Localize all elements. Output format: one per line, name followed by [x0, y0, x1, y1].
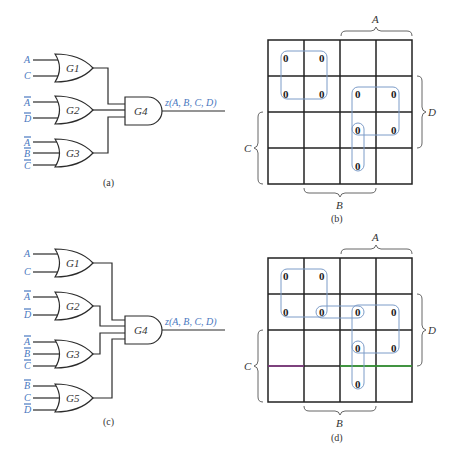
kmap-cell-zero: 0 — [319, 52, 325, 64]
caption-a: (a) — [103, 177, 114, 189]
input-label-c: C — [24, 392, 31, 403]
input-label-d-bar: D — [23, 404, 32, 415]
brace-c — [254, 112, 263, 184]
panel-c-circuit: A C A D A B C B C D G1 G2 G3 — [23, 248, 225, 428]
gate-label-g2: G2 — [66, 300, 80, 312]
kmap-cell-zero: 0 — [355, 378, 361, 390]
kmap-cell-zero: 0 — [283, 270, 289, 282]
output-label: z(A, B, C, D) — [164, 316, 217, 328]
brace-a — [341, 27, 412, 36]
output-label: z(A, B, C, D) — [164, 97, 217, 109]
kmap-cell-zero: 0 — [391, 88, 397, 100]
kmap-cell-zero: 0 — [283, 306, 289, 318]
figure-canvas: A C A D A B C G1 G2 G3 G4 — [0, 0, 452, 461]
input-label-b-bar: B — [24, 348, 30, 359]
kmap-cell-zero: 0 — [391, 306, 397, 318]
var-label-a: A — [371, 231, 379, 243]
panel-b-kmap: A D C B 0 0 0 0 0 0 0 0 0 (b) — [244, 13, 436, 225]
gate-label-g3: G3 — [66, 348, 80, 360]
gate-label-g2: G2 — [66, 104, 80, 116]
panel-a-circuit: A C A D A B C G1 G2 G3 G4 — [23, 54, 225, 189]
var-label-d: D — [427, 106, 436, 118]
kmap-cell-zero: 0 — [355, 342, 361, 354]
kmap-cell-zero: 0 — [283, 88, 289, 100]
input-label-c-bar: C — [24, 360, 31, 371]
kmap-cell-zero: 0 — [355, 88, 361, 100]
var-label-b: B — [336, 199, 343, 211]
input-label-b-bar: B — [24, 380, 30, 391]
kmap-cell-zero: 0 — [319, 306, 325, 318]
kmap-cell-zero: 0 — [319, 270, 325, 282]
input-label-c-bar: C — [24, 160, 31, 171]
var-label-d: D — [427, 324, 436, 336]
gate-label-g3: G3 — [66, 147, 80, 159]
kmap-cell-zero: 0 — [319, 88, 325, 100]
brace-d — [417, 294, 426, 366]
kmap-cell-zero: 0 — [283, 52, 289, 64]
gate-label-g5: G5 — [66, 392, 80, 404]
input-label-a: A — [23, 248, 31, 259]
input-label-a-bar: A — [23, 137, 31, 148]
brace-a — [341, 245, 412, 254]
input-label-c: C — [24, 266, 31, 277]
var-label-b: B — [336, 417, 343, 429]
input-label-b-bar: B — [24, 148, 30, 159]
var-label-c: C — [244, 360, 252, 372]
brace-d — [417, 76, 426, 148]
gate-label-g4: G4 — [134, 105, 148, 117]
kmap-cell-zero: 0 — [391, 124, 397, 136]
input-label-a-bar: A — [23, 97, 31, 108]
input-label-d-bar: D — [23, 309, 32, 320]
kmap-cell-zero: 0 — [355, 124, 361, 136]
input-label-a: A — [23, 54, 31, 65]
input-label-d-bar: D — [23, 113, 32, 124]
caption-c: (c) — [103, 416, 114, 428]
gate-label-g1: G1 — [66, 257, 79, 269]
panel-d-kmap: A D C B 0 0 0 0 0 0 0 0 0 (d) — [244, 231, 436, 444]
brace-b — [304, 188, 376, 197]
caption-b: (b) — [331, 213, 343, 225]
brace-c — [254, 330, 263, 402]
gate-label-g1: G1 — [66, 62, 79, 74]
kmap-cell-zero: 0 — [391, 342, 397, 354]
gate-label-g4: G4 — [134, 324, 148, 336]
kmap-cell-zero: 0 — [355, 160, 361, 172]
var-label-a: A — [371, 13, 379, 25]
input-label-a-bar: A — [23, 291, 31, 302]
brace-b — [304, 406, 376, 415]
kmap-cell-zero: 0 — [355, 306, 361, 318]
var-label-c: C — [244, 142, 252, 154]
input-label-c: C — [24, 70, 31, 81]
caption-d: (d) — [331, 432, 343, 444]
input-label-a-bar: A — [23, 336, 31, 347]
